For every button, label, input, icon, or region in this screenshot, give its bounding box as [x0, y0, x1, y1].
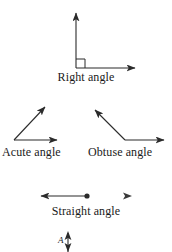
obtuse-angle-group — [95, 110, 164, 140]
acute-angle-group — [14, 107, 57, 140]
caption-straight-angle: Straight angle — [0, 205, 172, 217]
angles-figure: Right angle Acute angle Obtuse angle Str… — [0, 0, 172, 252]
bottom-point-label: A — [58, 236, 64, 245]
acute-angle-diagonal-ray — [14, 107, 45, 140]
obtuse-angle-diagonal-ray — [95, 110, 125, 140]
straight-angle-vertex-dot — [84, 193, 89, 198]
right-angle-square-marker — [76, 59, 85, 68]
bottom-point-marker-group — [65, 231, 72, 252]
caption-obtuse-angle: Obtuse angle — [88, 146, 152, 158]
caption-right-angle: Right angle — [0, 71, 172, 83]
straight-angle-right-arrowhead — [123, 193, 132, 200]
straight-angle-group — [41, 193, 132, 200]
caption-acute-angle: Acute angle — [2, 146, 61, 158]
right-angle-group — [76, 13, 135, 68]
